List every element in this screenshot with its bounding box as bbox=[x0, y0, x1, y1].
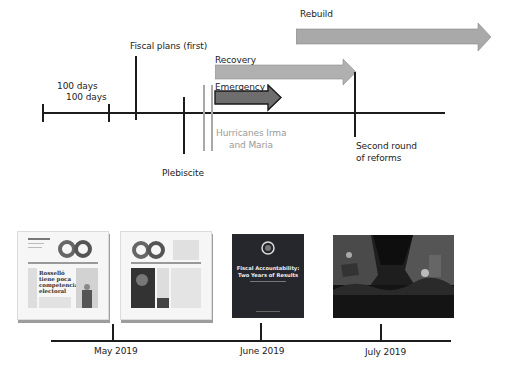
fiscal-plans-marker bbox=[135, 56, 137, 120]
rebuild-arrow bbox=[296, 22, 496, 52]
100-days-tick bbox=[108, 104, 110, 122]
start-tick bbox=[42, 104, 44, 122]
newspaper-thumbnail-2 bbox=[120, 231, 212, 320]
bottom-timeline-axis bbox=[51, 340, 451, 342]
second-round-marker bbox=[354, 72, 356, 137]
june-2019-label: June 2019 bbox=[240, 346, 284, 357]
report-title-line1: Fiscal Accountability: bbox=[237, 265, 300, 272]
hurricane-irma-marker bbox=[203, 85, 205, 151]
july-2019-label: July 2019 bbox=[365, 347, 406, 358]
rebuild-label: Rebuild bbox=[300, 9, 333, 20]
may-2019-tick bbox=[112, 324, 114, 341]
hurricanes-label-line1: Hurricanes Irma bbox=[216, 128, 286, 139]
100-days-label-1: 100 days bbox=[57, 81, 97, 92]
hurricanes-label-line2: and Maria bbox=[229, 140, 273, 151]
june-2019-tick bbox=[260, 323, 262, 341]
plebiscite-marker bbox=[183, 97, 185, 154]
protest-photo-thumbnail bbox=[333, 235, 454, 318]
hurricane-maria-marker bbox=[211, 85, 213, 151]
may-2019-label: May 2019 bbox=[94, 346, 138, 357]
report-title-line2: Two Years of Results bbox=[238, 272, 298, 278]
emergency-label: Emergency bbox=[215, 82, 265, 93]
second-round-label-line2: of reforms bbox=[356, 153, 401, 164]
recovery-label: Recovery bbox=[215, 55, 256, 66]
top-timeline-axis bbox=[43, 112, 445, 114]
plebiscite-label: Plebiscite bbox=[162, 168, 204, 179]
newspaper-thumbnail-1: Rosselló tiene poca competencia electora… bbox=[17, 231, 109, 320]
100-days-label-2: 100 days bbox=[66, 92, 106, 103]
report-cover-thumbnail: Fiscal Accountability: Two Years of Resu… bbox=[232, 234, 304, 318]
headline-line-4: electoral bbox=[39, 288, 66, 294]
july-2019-tick bbox=[380, 324, 382, 341]
fiscal-plans-label: Fiscal plans (first) bbox=[130, 41, 207, 52]
second-round-label-line1: Second round bbox=[356, 141, 417, 152]
